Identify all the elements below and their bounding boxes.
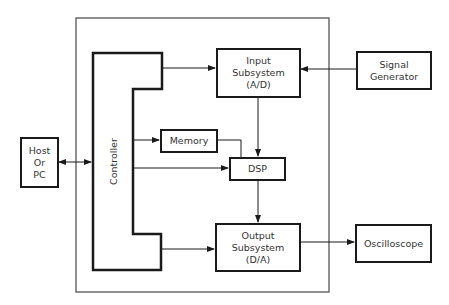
output-line-1: Output	[242, 230, 275, 242]
dsp-label: DSP	[248, 163, 267, 175]
oscilloscope-label: Oscilloscope	[364, 238, 423, 250]
signal-generator-block: Signal Generator	[356, 51, 432, 90]
dsp-block: DSP	[229, 157, 286, 181]
host-line-3: PC	[33, 169, 45, 181]
oscilloscope-block: Oscilloscope	[355, 224, 432, 263]
host-line-2: Or	[34, 157, 45, 169]
input-subsystem-block: Input Subsystem (A/D)	[216, 48, 301, 98]
controller-label: Controller	[108, 132, 119, 192]
siggen-line-2: Generator	[370, 71, 418, 83]
line-memory-dsp	[218, 140, 241, 157]
memory-block: Memory	[160, 129, 218, 153]
controller-block	[93, 53, 162, 270]
input-line-3: (A/D)	[246, 79, 270, 91]
output-subsystem-block: Output Subsystem (D/A)	[215, 223, 301, 272]
output-line-3: (D/A)	[246, 254, 270, 266]
input-line-1: Input	[246, 55, 271, 67]
input-line-2: Subsystem	[232, 67, 284, 79]
siggen-line-1: Signal	[379, 59, 408, 71]
host-line-1: Host	[29, 145, 51, 157]
host-block: Host Or PC	[20, 137, 59, 188]
output-line-2: Subsystem	[232, 242, 284, 254]
memory-label: Memory	[170, 135, 209, 147]
